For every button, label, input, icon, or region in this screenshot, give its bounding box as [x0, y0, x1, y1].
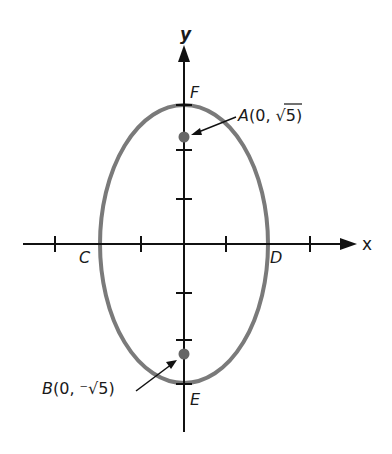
label-f: F — [190, 83, 200, 102]
label-d: D — [270, 248, 282, 267]
label-a-coord: (0, — [249, 106, 276, 125]
label-a-radical: √5 — [276, 106, 296, 125]
label-a-suffix: ) — [296, 106, 302, 125]
x-axis-arrow-icon — [340, 238, 357, 250]
label-b-neg: ⁻ — [80, 379, 88, 398]
diagram-canvas: y x F E C D A(0, √5) B(0, ⁻√5) — [0, 0, 392, 454]
label-b-name: B — [42, 379, 53, 398]
label-b-radical: √5 — [88, 379, 108, 398]
ellipse-diagram: y x F E C D A(0, √5) B(0, ⁻√5) — [0, 0, 392, 454]
label-b-coord: (0, — [53, 379, 80, 398]
label-b: B(0, ⁻√5) — [42, 379, 115, 398]
x-axis — [23, 236, 357, 252]
point-b-dot — [179, 349, 190, 360]
x-axis-label: x — [362, 234, 372, 254]
point-a-dot — [179, 132, 190, 143]
label-a: A(0, √5) — [237, 106, 302, 125]
label-b-suffix: ) — [108, 379, 114, 398]
label-c: C — [79, 248, 91, 267]
y-axis-arrow-icon — [178, 45, 190, 62]
y-axis-label: y — [180, 24, 192, 44]
label-e: E — [190, 390, 201, 409]
label-a-name: A — [237, 106, 249, 125]
y-axis — [176, 45, 192, 432]
